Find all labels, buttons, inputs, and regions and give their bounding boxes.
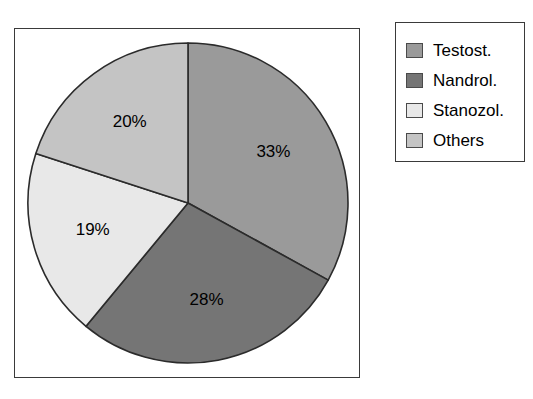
pie-slice-label: 33% bbox=[256, 142, 290, 161]
pie-slice-label: 20% bbox=[113, 112, 147, 131]
pie-svg: 33%28%19%20% bbox=[14, 28, 360, 378]
legend-swatch-testost bbox=[406, 43, 423, 58]
legend-label-stanozol: Stanozol. bbox=[433, 102, 504, 119]
legend-label-others: Others bbox=[433, 132, 484, 149]
legend-item[interactable]: Stanozol. bbox=[406, 95, 524, 125]
legend-label-testost: Testost. bbox=[433, 42, 492, 59]
legend: Testost. Nandrol. Stanozol. Others bbox=[395, 22, 525, 162]
legend-item[interactable]: Testost. bbox=[406, 35, 524, 65]
pie-chart: 33%28%19%20% bbox=[14, 28, 360, 378]
pie-slice-label: 19% bbox=[76, 220, 110, 239]
legend-label-nandrol: Nandrol. bbox=[433, 72, 497, 89]
legend-swatch-stanozol bbox=[406, 103, 423, 118]
legend-item[interactable]: Others bbox=[406, 125, 524, 155]
pie-slices bbox=[28, 43, 348, 363]
legend-swatch-nandrol bbox=[406, 73, 423, 88]
legend-item[interactable]: Nandrol. bbox=[406, 65, 524, 95]
pie-slice-label: 28% bbox=[190, 290, 224, 309]
legend-swatch-others bbox=[406, 133, 423, 148]
pie-chart-figure: 33%28%19%20% Testost. Nandrol. Stanozol.… bbox=[0, 0, 533, 399]
